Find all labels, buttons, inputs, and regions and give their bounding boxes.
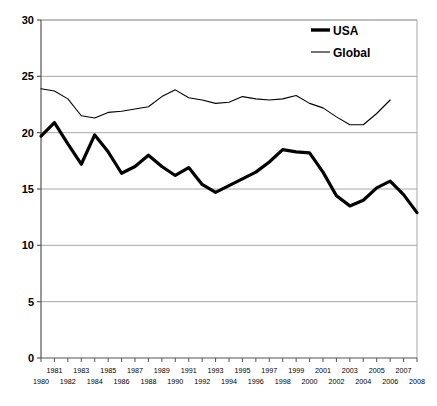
y-tick-label-30: 30: [22, 14, 34, 26]
x-tick-label-1985: 1985: [100, 366, 116, 375]
x-tick-label-2000: 2000: [302, 377, 318, 386]
y-tick-label-20: 20: [22, 127, 34, 139]
x-tick-labels-even-years: 1980198219841986198819901992199419961998…: [33, 377, 425, 386]
x-tick-label-2001: 2001: [315, 366, 331, 375]
y-tick-label-10: 10: [22, 239, 34, 251]
chart-canvas: 051015202530 198119831985198719891991199…: [0, 0, 437, 406]
x-tick-label-2007: 2007: [396, 366, 412, 375]
x-tick-label-1995: 1995: [234, 366, 250, 375]
x-tick-label-1990: 1990: [167, 377, 183, 386]
x-tick-label-1984: 1984: [87, 377, 103, 386]
x-tick-label-2008: 2008: [409, 377, 425, 386]
y-tick-label-5: 5: [28, 296, 34, 308]
legend: USA Global: [297, 18, 417, 66]
x-tick-label-1983: 1983: [73, 366, 89, 375]
y-tick-label-0: 0: [28, 352, 34, 364]
y-tick-label-15: 15: [22, 183, 34, 195]
legend-label-global: Global: [333, 46, 370, 60]
x-tick-label-1991: 1991: [181, 366, 197, 375]
x-tick-label-2005: 2005: [369, 366, 385, 375]
x-tick-label-2003: 2003: [342, 366, 358, 375]
x-tick-label-1996: 1996: [248, 377, 264, 386]
legend-label-usa: USA: [333, 24, 359, 38]
x-tick-label-2006: 2006: [382, 377, 398, 386]
x-tick-label-1987: 1987: [127, 366, 143, 375]
x-tick-label-1993: 1993: [208, 366, 224, 375]
x-tick-label-1989: 1989: [154, 366, 170, 375]
x-tick-label-1986: 1986: [114, 377, 130, 386]
x-tick-label-1998: 1998: [275, 377, 291, 386]
x-tick-label-1981: 1981: [46, 366, 62, 375]
y-tick-label-25: 25: [22, 70, 34, 82]
x-tick-label-1999: 1999: [288, 366, 304, 375]
x-tick-label-1997: 1997: [261, 366, 277, 375]
x-tick-label-2004: 2004: [355, 377, 371, 386]
x-tick-label-1992: 1992: [194, 377, 210, 386]
x-tick-label-1980: 1980: [33, 377, 49, 386]
x-tick-label-2002: 2002: [328, 377, 344, 386]
x-tick-label-1982: 1982: [60, 377, 76, 386]
line-chart: 051015202530 198119831985198719891991199…: [0, 0, 437, 406]
x-tick-label-1988: 1988: [140, 377, 156, 386]
x-tick-label-1994: 1994: [221, 377, 237, 386]
